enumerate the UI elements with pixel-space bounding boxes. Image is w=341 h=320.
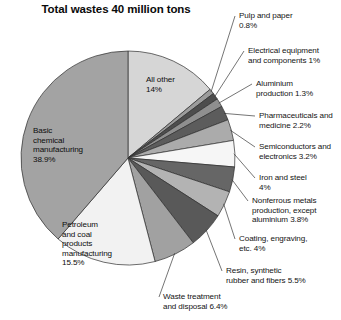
leader-line-aluminium [219, 84, 252, 103]
slice-label-resin: Resin, synthetic rubber and fibers 5.5% [226, 266, 306, 285]
slice-label-all-other: All other 14% [146, 75, 175, 94]
leader-line-coating [224, 204, 235, 239]
slice-label-waste-treatment: Waste treatment and disposal 6.4% [163, 292, 227, 311]
slice-label-basic-chemical: Basic chemical manufacturing 38.9% [33, 126, 83, 164]
leader-line-nonferrous [232, 179, 248, 201]
slice-label-nonferrous: Nonferrous metals production, except alu… [252, 196, 316, 225]
leader-line-electrical [215, 51, 244, 97]
leader-line-pulp-paper [211, 16, 235, 92]
slice-label-pharma: Pharmaceuticals and medicine 2.2% [259, 111, 333, 130]
slice-label-coating: Coating, engraving, etc. 4% [239, 234, 307, 253]
slice-label-aluminium: Aluminium production 1.3% [256, 79, 313, 98]
leader-line-pharma [224, 113, 255, 116]
slice-label-pulp-paper: Pulp and paper 0.8% [239, 11, 293, 30]
chart-figure: Total wastes 40 million tons All other 1… [0, 0, 341, 320]
leader-line-resin [206, 230, 222, 271]
slice-label-petroleum-coal: Petroleum and coal products manufacturin… [62, 220, 112, 268]
slice-label-electrical: Electrical equipment and components 1% [248, 46, 320, 65]
slice-label-iron-steel: Iron and steel 4% [259, 173, 307, 192]
leader-line-iron-steel [234, 154, 255, 178]
slice-label-semiconductors: Semiconductors and electronics 3.2% [259, 142, 331, 161]
